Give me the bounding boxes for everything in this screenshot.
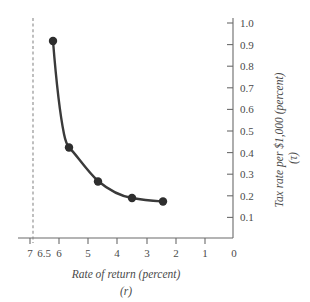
y-axis-title: Tax rate per $1,000 (percent) [273, 72, 286, 207]
y-tick-label: 0.3 [240, 168, 254, 180]
y-tick-label: 0.5 [240, 125, 254, 137]
y-tick-label: 0.9 [240, 39, 254, 51]
x-tick-label: 1 [202, 247, 208, 259]
x-tick-label: 0 [231, 247, 237, 259]
x-tick-label: 7 [27, 247, 33, 259]
x-tick-label: 2 [173, 247, 179, 259]
x-tick-label: 5 [85, 247, 91, 259]
x-axis-tick-labels: 7 6.5 6 5 4 3 2 1 0 [27, 247, 237, 259]
data-point [94, 177, 102, 185]
y-axis-ticks [227, 23, 233, 217]
y-tick-label: 0.7 [240, 82, 254, 94]
y-tick-label: 0.4 [240, 147, 254, 159]
data-curve [53, 41, 163, 202]
data-point [128, 194, 136, 202]
y-tick-label: 0.6 [240, 103, 254, 115]
y-tick-label: 1.0 [240, 17, 254, 29]
x-axis-title: Rate of return (percent) [71, 268, 181, 281]
data-point [159, 197, 167, 205]
x-axis-ticks [30, 238, 205, 244]
x-tick-label: 4 [114, 247, 120, 259]
chart-figure: 7 6.5 6 5 4 3 2 1 0 1.0 0.9 0.8 [0, 0, 310, 302]
y-tick-label: 0.2 [240, 190, 254, 202]
x-axis-symbol: (r) [120, 285, 132, 298]
y-axis-tick-labels: 1.0 0.9 0.8 0.7 0.6 0.5 0.4 0.3 0.2 0.1 [240, 17, 254, 223]
data-point [65, 143, 73, 151]
y-tick-label: 0.8 [240, 60, 254, 72]
x-tick-label: 3 [144, 247, 150, 259]
axes [18, 18, 233, 238]
y-tick-label: 0.1 [240, 211, 254, 223]
data-point [49, 37, 57, 45]
x-tick-label: 6 [56, 247, 62, 259]
y-axis-symbol: (τ) [287, 152, 300, 164]
data-points [49, 37, 167, 206]
chart-canvas: 7 6.5 6 5 4 3 2 1 0 1.0 0.9 0.8 [0, 0, 310, 302]
x-tick-label: 6.5 [37, 247, 51, 259]
